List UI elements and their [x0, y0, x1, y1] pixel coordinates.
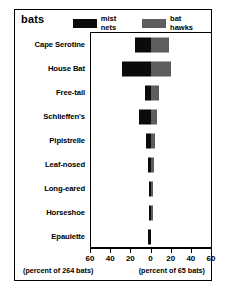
bar-row — [91, 129, 211, 153]
bar-group — [149, 182, 153, 197]
bar-group — [135, 38, 168, 53]
category-label-row: Leaf-nosed — [15, 152, 90, 176]
category-label: Schlieffen's — [43, 112, 85, 121]
black-swatch-icon — [73, 19, 97, 28]
category-label-row: Pipistrelle — [15, 128, 90, 152]
bar-row — [91, 81, 211, 105]
bar-segment-mist-nets — [139, 110, 151, 125]
x-tick-label: 20 — [166, 254, 175, 263]
legend-item-mist-nets: mist nets — [101, 14, 134, 32]
chart-legend: mist nets bat hawks — [73, 14, 211, 32]
bar-segment-mist-nets — [122, 62, 151, 77]
bar-row — [91, 201, 211, 225]
bar-segment-bat-hawks — [151, 134, 154, 149]
x-tick — [171, 249, 172, 253]
bar-group — [146, 134, 154, 149]
bar-row — [91, 177, 211, 201]
category-label-row: House Bat — [15, 56, 90, 80]
x-axis-titles: (percent of 264 bats) (percent of 65 bat… — [23, 266, 205, 275]
bar-row — [91, 105, 211, 129]
bar-row — [91, 225, 211, 249]
plot-right-border — [211, 32, 212, 249]
x-axis-title-right: (percent of 65 bats) — [139, 266, 205, 275]
bar-segment-bat-hawks — [151, 110, 156, 125]
bar-segment-bat-hawks — [151, 206, 153, 221]
bar-group — [148, 230, 151, 245]
bar-segment-mist-nets — [148, 230, 151, 245]
category-label: Leaf-nosed — [45, 160, 85, 169]
category-label: Epaulette — [51, 232, 85, 241]
category-label: Pipistrelle — [49, 136, 85, 145]
x-tick-label: 40 — [186, 254, 195, 263]
x-tick-label: 20 — [126, 254, 135, 263]
gray-swatch-icon — [142, 19, 166, 28]
x-tick — [90, 249, 91, 253]
bar-segment-bat-hawks — [151, 62, 170, 77]
category-label: Horseshoe — [46, 208, 85, 217]
x-axis-ticks — [90, 249, 211, 253]
category-label-row: Cape Serotine — [15, 32, 90, 56]
category-label-row: Free-tail — [15, 80, 90, 104]
chart-figure: bats mist nets bat hawks Cape Serotine H… — [14, 9, 212, 281]
bar-group — [122, 62, 170, 77]
category-label: Free-tail — [56, 88, 85, 97]
x-tick — [130, 249, 131, 253]
category-label-row: Epaulette — [15, 224, 90, 248]
bar-group — [149, 206, 153, 221]
bar-segment-bat-hawks — [151, 158, 153, 173]
bar-row — [91, 153, 211, 177]
x-tick-label: 0 — [148, 254, 152, 263]
bar-group — [148, 158, 153, 173]
bar-segment-bat-hawks — [151, 86, 158, 101]
x-tick-label: 40 — [106, 254, 115, 263]
category-label-row: Schlieffen's — [15, 104, 90, 128]
chart-title: bats — [21, 13, 44, 25]
legend-item-bat-hawks: bat hawks — [170, 14, 206, 32]
bars-container — [91, 33, 211, 247]
x-axis-tick-labels: 6040200204060 — [75, 254, 226, 266]
category-axis-labels: Cape Serotine House Bat Free-tail Schlie… — [15, 32, 90, 248]
x-axis-title-left: (percent of 264 bats) — [23, 266, 93, 275]
bar-segment-mist-nets — [135, 38, 151, 53]
x-tick-label: 60 — [207, 254, 216, 263]
x-tick — [151, 249, 152, 253]
chart-header: bats mist nets bat hawks — [15, 10, 211, 32]
bar-group — [145, 86, 158, 101]
category-label: Long-eared — [44, 184, 85, 193]
category-label: House Bat — [48, 64, 85, 73]
category-label: Cape Serotine — [35, 40, 85, 49]
x-tick — [110, 249, 111, 253]
bar-row — [91, 57, 211, 81]
x-tick — [211, 249, 212, 253]
bar-segment-bat-hawks — [151, 182, 153, 197]
x-tick — [191, 249, 192, 253]
category-label-row: Horseshoe — [15, 200, 90, 224]
bar-row — [91, 33, 211, 57]
bar-segment-bat-hawks — [151, 38, 168, 53]
category-label-row: Long-eared — [15, 176, 90, 200]
bar-group — [139, 110, 156, 125]
x-tick-label: 60 — [86, 254, 95, 263]
plot-area — [90, 32, 211, 248]
